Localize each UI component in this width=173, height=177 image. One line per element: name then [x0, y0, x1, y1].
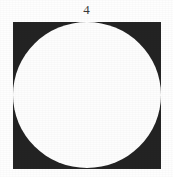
- figure-container: 4: [0, 0, 173, 177]
- black-square-shape: [13, 22, 161, 169]
- figure-number-label: 4: [0, 2, 173, 18]
- white-inscribed-circle-shape: [13, 22, 161, 168]
